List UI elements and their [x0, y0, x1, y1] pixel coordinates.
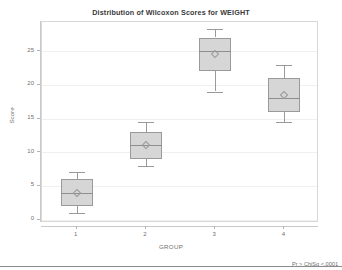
x-axis-line [41, 226, 318, 227]
x-tick-label: 3 [204, 231, 224, 237]
x-axis-title: GROUP [0, 243, 342, 250]
y-tick-mark [37, 118, 40, 119]
plot-area [41, 21, 318, 222]
y-tick-mark [37, 185, 40, 186]
chart-title: Distribution of Wilcoxon Scores for WEIG… [0, 8, 342, 17]
bottom-rule [0, 266, 342, 267]
x-tick-mark [214, 226, 215, 229]
x-tick-mark [283, 226, 284, 229]
y-tick-label: 0 [14, 215, 34, 221]
y-tick-label: 5 [14, 181, 34, 187]
y-tick-mark [37, 84, 40, 85]
x-tick-label: 2 [135, 231, 155, 237]
whisker-upper [284, 65, 285, 79]
chart-figure: Distribution of Wilcoxon Scores for WEIG… [0, 0, 342, 270]
whisker-lower [284, 112, 285, 122]
y-tick-mark [37, 50, 40, 51]
whisker-cap-upper [276, 65, 292, 66]
x-tick-mark [76, 226, 77, 229]
y-tick-mark [37, 219, 40, 220]
box-plot-4 [42, 22, 319, 221]
whisker-cap-lower [276, 122, 292, 123]
y-tick-label: 20 [14, 80, 34, 86]
y-tick-mark [37, 151, 40, 152]
x-tick-label: 1 [66, 231, 86, 237]
x-tick-label: 4 [273, 231, 293, 237]
y-tick-label: 15 [14, 114, 34, 120]
y-tick-label: 25 [14, 47, 34, 53]
y-axis-title: Score [8, 96, 15, 136]
y-axis-line [40, 21, 41, 222]
y-tick-label: 10 [14, 148, 34, 154]
x-tick-mark [145, 226, 146, 229]
